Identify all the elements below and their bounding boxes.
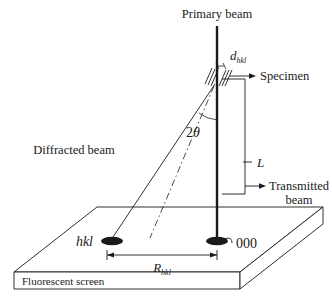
d-spacing-label: dhkl [230,48,247,65]
two-theta-arc [199,113,217,120]
two-theta-number: 2 [186,125,193,140]
transmitted-beam-leader [245,183,266,189]
specimen-hatching [205,68,232,86]
length-label: L [256,155,264,170]
xrd-geometry-diagram: Primary beam dhkl Specimen 2θ Diffracted… [0,0,332,297]
transmitted-beam-label-line1: Transmitted [269,179,330,193]
primary-beam-label: Primary beam [182,7,253,21]
hkl-diffraction-spot [101,237,123,246]
specimen-label: Specimen [260,69,310,83]
zero-spot-label: 000 [236,236,257,251]
screen-top-face [14,207,323,272]
radius-symbol: R [152,260,161,275]
hkl-spot-label: hkl [76,234,93,249]
fluorescent-screen-label: Fluorescent screen [22,275,105,287]
d-spacing-subscript: hkl [237,56,248,65]
theta-symbol: θ [193,125,200,140]
radius-subscript: hkl [161,268,172,277]
transmitted-beam-label-line2: beam [285,193,312,207]
diffracted-beam-label: Diffracted beam [33,143,115,157]
direct-beam-spot [206,237,228,246]
two-theta-label: 2θ [186,125,200,140]
length-dimension-line [222,79,252,194]
figure-container: Primary beam dhkl Specimen 2θ Diffracted… [0,0,332,297]
specimen-leader [230,73,256,79]
